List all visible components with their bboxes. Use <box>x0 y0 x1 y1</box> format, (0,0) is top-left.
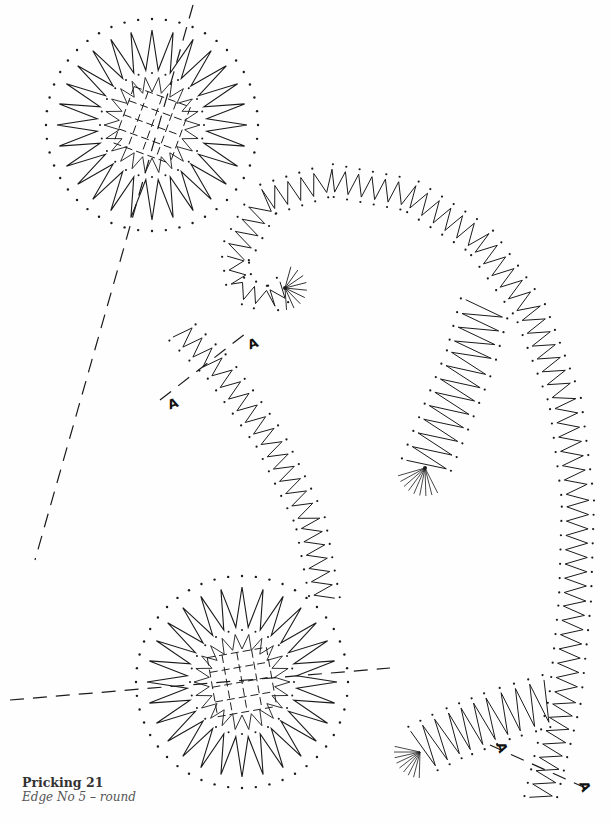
caption-title: Pricking 21 <box>22 775 136 790</box>
caption: Pricking 21 Edge No 5 – round <box>22 775 136 805</box>
caption-subtitle: Edge No 5 – round <box>22 790 136 805</box>
lace-pricking-diagram <box>0 0 612 823</box>
pricking-pattern-page: A A A A Pricking 21 Edge No 5 – round <box>0 0 612 823</box>
